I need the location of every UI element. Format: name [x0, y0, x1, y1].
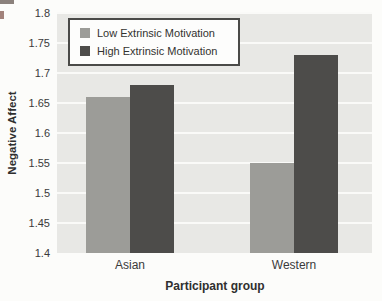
legend: Low Extrinsic Motivation High Extrinsic … — [68, 18, 240, 66]
gridline-1.8 — [57, 12, 372, 14]
legend-swatch-high — [80, 46, 90, 56]
y-axis-title: Negative Affect — [0, 13, 24, 253]
bar-asian-low — [86, 97, 130, 253]
legend-label-high: High Extrinsic Motivation — [97, 45, 217, 57]
scan-smudge-left-edge — [0, 11, 4, 19]
bar-western-high — [294, 55, 338, 253]
legend-swatch-low — [80, 28, 90, 38]
x-category-label-asian: Asian — [115, 258, 145, 272]
legend-item-low: Low Extrinsic Motivation — [80, 27, 238, 39]
bar-western-low — [250, 163, 294, 253]
scan-smudge-top-left — [0, 0, 14, 4]
y-axis-title-text: Negative Affect — [6, 91, 18, 174]
x-category-label-western: Western — [272, 258, 316, 272]
legend-label-low: Low Extrinsic Motivation — [97, 27, 215, 39]
bar-chart-figure: 1.81.751.71.651.61.551.51.451.4 AsianWes… — [0, 0, 382, 301]
bar-asian-high — [130, 85, 174, 253]
x-axis-title: Participant group — [165, 279, 264, 293]
legend-item-high: High Extrinsic Motivation — [80, 45, 238, 57]
